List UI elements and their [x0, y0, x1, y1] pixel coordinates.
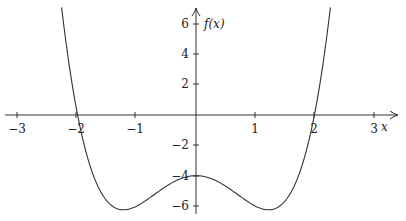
x-tick-label: −1 — [126, 122, 144, 136]
y-tick-label: −2 — [171, 138, 189, 152]
x-tick-label: −2 — [67, 122, 85, 136]
x-tick-label: 1 — [251, 122, 259, 136]
y-tick-label: −4 — [171, 169, 189, 183]
x-tick-label: −3 — [8, 122, 26, 136]
function-plot: −3 −2 −1 1 2 3 6 4 2 −2 −4 −6 f(x) x — [0, 0, 406, 221]
y-axis-label: f(x) — [203, 17, 225, 31]
x-axis-label: x — [381, 120, 388, 134]
y-tick-label: 6 — [181, 17, 189, 31]
x-tick-label: 3 — [370, 122, 378, 136]
y-tick-label: −6 — [171, 199, 189, 213]
y-tick-label: 2 — [181, 77, 189, 91]
y-tick-label: 4 — [181, 47, 189, 61]
